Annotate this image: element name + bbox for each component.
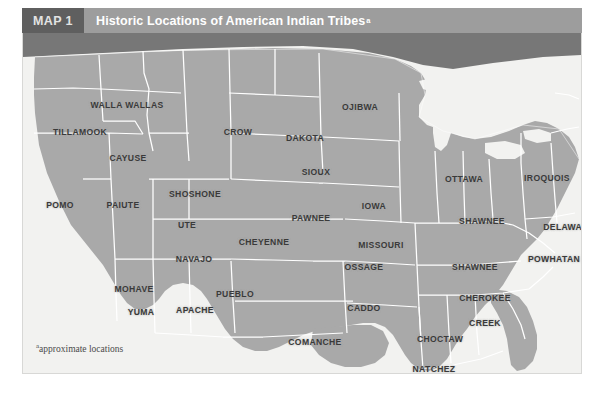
figure-footnote: aapproximate locations: [36, 344, 123, 354]
map-number-badge: MAP 1: [22, 8, 84, 33]
page-title: Historic Locations of American Indian Tr…: [84, 8, 582, 33]
us-map-graphic: [23, 33, 581, 373]
page-title-text: Historic Locations of American Indian Tr…: [96, 14, 365, 28]
map-canvas: WALLA WALLASTILLAMOOKCAYUSEPOMOPAIUTESHO…: [23, 33, 581, 373]
map-figure: MAP 1 Historic Locations of American Ind…: [0, 0, 605, 409]
footnote-text: approximate locations: [39, 344, 123, 354]
figure-header: MAP 1 Historic Locations of American Ind…: [22, 8, 582, 33]
